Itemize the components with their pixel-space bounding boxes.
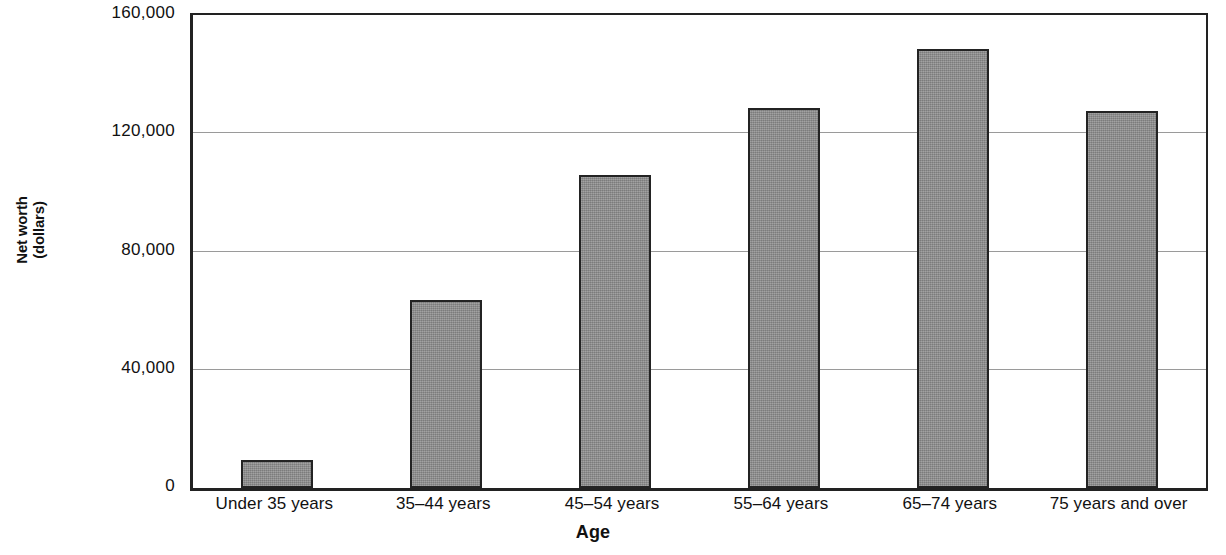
bar [241,460,313,488]
bar [748,108,820,488]
y-axis-tick-label: 80,000 [55,240,175,260]
y-axis-title-line2: (dollars) [30,201,47,258]
x-axis-tick-label: 45–54 years [565,494,660,514]
x-axis-tick-label: 65–74 years [902,494,997,514]
y-axis-tick-label: 160,000 [55,3,175,23]
x-axis-tick-labels: Under 35 years35–44 years45–54 years55–6… [190,494,1208,520]
bar [579,175,651,488]
y-axis-title: Net worth (dollars) [0,160,60,300]
y-axis-tick-label: 120,000 [55,121,175,141]
x-axis-tick-label: 35–44 years [396,494,491,514]
x-axis-tick-label: 55–64 years [734,494,829,514]
bar-chart: Net worth (dollars) 040,00080,000120,000… [0,0,1226,555]
y-axis-tick-label: 0 [55,476,175,496]
y-axis-tick-labels: 040,00080,000120,000160,000 [55,0,175,555]
bar [917,49,989,488]
y-axis-tick-label: 40,000 [55,358,175,378]
x-axis-tick-label: Under 35 years [216,494,334,514]
bars-layer [193,15,1206,488]
x-axis-title-text: Age [576,522,611,543]
x-axis-title: Age [0,522,1226,543]
plot-area [190,13,1208,491]
x-axis-tick-label: 75 years and over [1050,494,1188,514]
bar [1086,111,1158,488]
y-axis-title-line1: Net worth [13,196,30,263]
bar [410,300,482,488]
